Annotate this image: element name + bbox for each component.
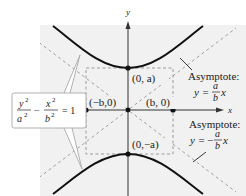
- eq-minus: −: [34, 105, 40, 116]
- upper-vertex-label: (0, a): [132, 72, 156, 85]
- asymptote-negative-sign: −: [207, 134, 213, 146]
- upper-vertex-point: [125, 65, 130, 70]
- x-axis-label: x: [227, 105, 232, 115]
- eq-equals: = 1: [62, 105, 75, 116]
- asymptote-negative-num: a: [215, 128, 220, 139]
- eq-term1-num-exp: 2: [25, 96, 29, 104]
- origin-point: [126, 108, 131, 113]
- lower-vertex-label: (0,−a): [132, 138, 159, 151]
- eq-term2-num: x: [45, 98, 51, 109]
- eq-term2-den: b: [45, 113, 50, 124]
- left-co-vertex-label: (−b,0): [89, 96, 117, 109]
- asymptote-positive-var: x: [220, 86, 226, 98]
- asymptote-negative-lhs: y =: [189, 134, 205, 146]
- eq-term2-den-exp: 2: [51, 111, 55, 119]
- lower-vertex-point: [125, 151, 130, 156]
- right-co-vertex-label: (b, 0): [146, 96, 170, 109]
- hyperbola-diagram: y x (0, a) (0,−a) (−b,0) (b, 0) Asymptot…: [0, 0, 246, 196]
- eq-term1-num: y: [18, 98, 24, 109]
- eq-term1-den-exp: 2: [24, 111, 28, 119]
- asymptote-negative-den: b: [215, 140, 220, 151]
- asymptote-positive-num: a: [213, 80, 218, 91]
- asymptote-negative-var: x: [222, 134, 228, 146]
- eq-term1-den: a: [17, 113, 22, 124]
- asymptote-positive-den: b: [213, 92, 218, 103]
- asymptote-positive-lhs: y =: [193, 86, 209, 98]
- y-axis-label: y: [125, 7, 130, 17]
- eq-term2-num-exp: 2: [52, 96, 56, 104]
